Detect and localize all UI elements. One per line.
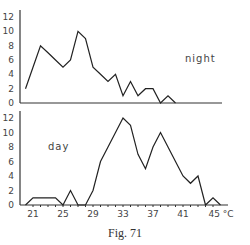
y-tick-label: 0: [8, 200, 14, 210]
y-tick-label: 2: [8, 84, 14, 94]
x-tick-label: 21: [27, 209, 38, 219]
y-tick-label: 2: [8, 186, 14, 196]
night-label: night: [185, 53, 216, 64]
x-tick-label: 45 °C: [208, 209, 233, 219]
y-tick-label: 0: [8, 98, 14, 108]
x-tick-label: 29: [87, 209, 99, 219]
y-tick-label: 8: [8, 41, 14, 51]
y-tick-label: 4: [8, 69, 14, 79]
y-tick-label: 12: [3, 113, 14, 123]
x-tick-label: 33: [117, 209, 128, 219]
night-series-line: [26, 31, 176, 103]
y-tick-label: 8: [8, 142, 14, 152]
x-tick-label: 37: [147, 209, 158, 219]
y-tick-label: 10: [3, 128, 15, 138]
y-tick-label: 12: [3, 12, 14, 22]
y-tick-label: 4: [8, 171, 14, 181]
y-tick-label: 6: [8, 157, 14, 167]
figure-chart: 024681012night024681012day21252933374145…: [0, 0, 250, 245]
figure-caption: Fig. 71: [0, 226, 250, 241]
x-tick-label: 41: [177, 209, 188, 219]
x-tick-label: 25: [57, 209, 68, 219]
y-tick-label: 6: [8, 55, 14, 65]
day-label: day: [48, 141, 69, 152]
day-series-line: [26, 118, 221, 205]
y-tick-label: 10: [3, 26, 15, 36]
